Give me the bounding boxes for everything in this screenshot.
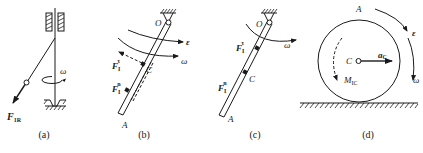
moment-label: MIC <box>343 75 358 86</box>
force-arrow <box>13 83 26 103</box>
moment-arc <box>333 38 342 80</box>
inclined-rod <box>27 38 55 82</box>
mass-point <box>24 80 29 85</box>
point-a-label: A <box>355 4 362 14</box>
pivot-o <box>267 20 272 25</box>
rotation-arrow-icon <box>62 79 66 83</box>
center-label: C <box>249 74 256 84</box>
omega-label: ω <box>60 66 66 76</box>
panel-a: ω F1R (a) <box>6 8 66 141</box>
tangential-force-arrow <box>119 52 142 63</box>
end-a-label: A <box>227 114 234 124</box>
accel-label: aC <box>378 50 387 60</box>
rod <box>219 22 272 117</box>
mechanics-figure: ω F1R (a) <box>0 0 423 153</box>
f-tau-label: FIτ <box>111 58 121 72</box>
panel-d: C aC MIC ε ω A (d) <box>300 4 419 141</box>
end-a-label: A <box>121 120 128 130</box>
pivot-label: O <box>256 19 263 29</box>
omega-label: ω <box>181 56 187 66</box>
caption-d: (d) <box>362 129 374 141</box>
f-n-label: FIn <box>217 80 227 94</box>
rotation-arc <box>42 77 62 84</box>
f-n-label: FIn <box>111 81 121 95</box>
caption-c: (c) <box>249 129 260 141</box>
omega-arc <box>408 38 414 80</box>
f-tau-label: FIτ <box>235 40 245 54</box>
epsilon-arc <box>375 9 407 31</box>
omega-label: ω <box>413 75 419 85</box>
center-c <box>356 59 361 64</box>
omega-label: ω <box>284 40 290 50</box>
ground <box>300 103 418 108</box>
panel-b: O ε ω C FIτ FIn A (b) <box>111 9 190 141</box>
caption-a: (a) <box>38 129 49 141</box>
force-label: F1R <box>6 111 22 123</box>
panel-c: O ω FIτ C FIn A (c) <box>217 9 296 141</box>
epsilon-label: ε <box>186 37 190 47</box>
pivot-label: O <box>155 18 162 28</box>
epsilon-label: ε <box>412 28 416 38</box>
center-c-marker <box>242 69 247 74</box>
center-label: C <box>346 56 353 66</box>
center-label: C <box>146 65 153 75</box>
caption-b: (b) <box>138 129 150 141</box>
epsilon-arc <box>128 30 183 42</box>
pivot-o <box>166 20 171 25</box>
